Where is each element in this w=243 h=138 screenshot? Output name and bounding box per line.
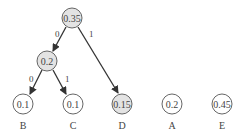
leaf-C-label: C	[70, 120, 77, 131]
leaf-B-label: B	[20, 120, 27, 131]
edge-label-n02-C: 1	[65, 74, 70, 84]
leaf-C-value: 0.1	[67, 99, 80, 110]
node-root-value: 0.35	[63, 13, 81, 24]
edge-label-root-n02: 0	[55, 29, 60, 39]
leaf-node-D: 0.15 D	[112, 94, 132, 131]
leaf-B-value: 0.1	[17, 99, 30, 110]
edge-label-root-D: 1	[89, 29, 94, 39]
leaf-E-label: E	[219, 120, 225, 131]
edge-label-n02-B: 0	[29, 74, 34, 84]
leaf-D-label: D	[118, 120, 125, 131]
leaf-node-E: 0.45 E	[212, 94, 232, 131]
node-internal-0-2: 0.2	[37, 51, 57, 71]
leaf-A-value: 0.2	[166, 99, 179, 110]
edge-root-to-D	[78, 27, 118, 93]
leaf-node-B: 0.1 B	[13, 94, 33, 131]
leaf-A-label: A	[168, 120, 176, 131]
node-internal-value: 0.2	[41, 56, 54, 67]
leaf-D-value: 0.15	[113, 99, 131, 110]
leaf-E-value: 0.45	[213, 99, 231, 110]
leaf-node-A: 0.2 A	[162, 94, 182, 131]
huffman-tree-diagram: 0 1 0 1 0.35 0.2 0.1 B 0.1 C 0.15 D	[0, 0, 243, 138]
leaf-node-C: 0.1 C	[63, 94, 83, 131]
node-root: 0.35	[62, 8, 82, 28]
